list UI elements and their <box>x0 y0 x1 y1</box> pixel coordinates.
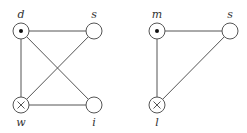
node-s-right: s <box>222 8 238 39</box>
node-d: d <box>13 8 29 39</box>
node-label-i: i <box>92 116 96 129</box>
node-i: i <box>86 97 102 129</box>
node-s-left: s <box>86 8 102 39</box>
left-graph: d s w i <box>13 8 102 129</box>
node-label-s: s <box>227 8 233 21</box>
node-label-w: w <box>16 116 26 129</box>
dot-icon <box>155 29 159 33</box>
right-graph: m s l <box>149 8 238 129</box>
diagram-canvas: d s w i m s l <box>0 0 247 133</box>
edge-s-l <box>157 31 230 105</box>
dot-icon <box>19 29 23 33</box>
node-label-l: l <box>155 116 159 129</box>
node-l: l <box>149 97 165 129</box>
node-w: w <box>13 97 29 129</box>
node-label-m: m <box>152 8 162 21</box>
node-label-d: d <box>17 8 24 21</box>
node-label-s: s <box>91 8 97 21</box>
node-m: m <box>149 8 165 39</box>
